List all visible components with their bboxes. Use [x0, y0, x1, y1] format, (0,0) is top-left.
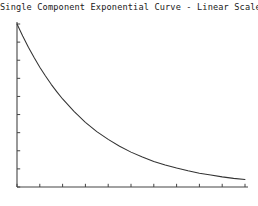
- axes: [17, 22, 248, 187]
- exponential-decay-curve: [17, 24, 245, 180]
- plot-area: [0, 0, 258, 206]
- chart-figure: Single Component Exponential Curve - Lin…: [0, 0, 258, 206]
